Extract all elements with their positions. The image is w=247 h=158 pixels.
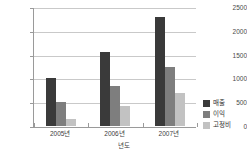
bar [66, 119, 76, 126]
x-axis-title: 년도 [0, 143, 247, 150]
y-axis-tick-label: 1500 [219, 52, 247, 59]
legend-swatch-icon [203, 100, 210, 107]
bar [175, 93, 185, 126]
x-axis-tick-label: 2005년 [50, 131, 70, 138]
x-axis-tick-mark [34, 123, 35, 127]
bar-group [34, 7, 88, 126]
plot-area [33, 8, 196, 128]
legend-swatch-icon [203, 122, 210, 129]
bar [56, 102, 66, 126]
bar [110, 86, 120, 126]
bar-group [143, 7, 197, 126]
x-axis-tick-label: 2007년 [159, 131, 179, 138]
bar [155, 17, 165, 126]
legend-item-label: 매출 [213, 100, 225, 107]
y-axis-tick-label: 1000 [219, 76, 247, 83]
x-axis-tick-label: 2006년 [104, 131, 124, 138]
legend-item: 매출 [203, 99, 231, 107]
legend-item-label: 고정비 [213, 122, 231, 129]
bar [120, 106, 130, 126]
bar [100, 52, 110, 126]
y-axis-tick-label: 2500 [219, 5, 247, 12]
legend-item: 고정비 [203, 121, 231, 129]
chart-legend: 매출이익고정비 [203, 99, 231, 129]
bar-group [88, 7, 142, 126]
bar [165, 67, 175, 126]
legend-item: 이익 [203, 110, 231, 118]
y-axis-tick-label: 2000 [219, 29, 247, 36]
legend-swatch-icon [203, 111, 210, 118]
legend-item-label: 이익 [213, 111, 225, 118]
x-axis-tick-mark [197, 123, 198, 127]
bar-chart-figure: 05001000150020002500 2005년2006년2007년 년도 … [0, 0, 247, 158]
bar [46, 78, 56, 126]
